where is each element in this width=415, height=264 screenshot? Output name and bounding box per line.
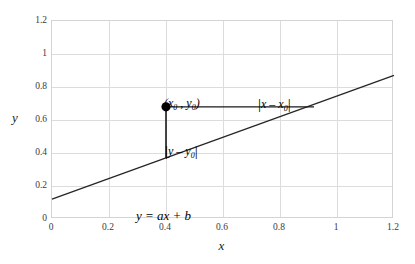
x-tick-label: 1.2: [373, 222, 413, 232]
minus-sign: –: [173, 144, 185, 158]
annotation-point-label: (x0 , y0): [164, 97, 200, 113]
y-tick-label: 0.4: [21, 147, 47, 157]
y-axis-title: y: [12, 110, 18, 126]
comma: ,: [177, 96, 186, 110]
y-tick-label: 1: [21, 48, 47, 58]
x-tick-label: 0: [31, 222, 71, 232]
chart-data-layer: [52, 21, 394, 219]
minus-sign: –: [266, 97, 278, 111]
abs-bar-open: |: [165, 143, 168, 159]
x-tick-label: 0.6: [202, 222, 242, 232]
x-tick-label: 0.2: [88, 222, 128, 232]
x-tick-label: 0.8: [259, 222, 299, 232]
abs-bar-close: |: [288, 96, 291, 112]
chart-figure: 1.2 1 0.8 0.6 0.4 0.2 0 y: [0, 0, 415, 264]
abs-bar-open: |: [258, 96, 261, 112]
y-tick-label: 0.8: [21, 81, 47, 91]
regression-line: [52, 75, 394, 199]
x-tick-label: 0.4: [145, 222, 185, 232]
annotation-x-distance-label: |x – x0|: [258, 95, 291, 114]
y-tick-label: 0.6: [21, 114, 47, 124]
x-tick-label: 1: [316, 222, 356, 232]
paren-close: ): [196, 96, 200, 110]
x-axis-tick-labels: 0 0.2 0.4 0.6 0.8 1 1.2: [51, 222, 393, 236]
annotation-y-distance-label: |y – y0|: [165, 142, 198, 161]
x-axis-title-text: x: [219, 238, 225, 253]
x-axis-title: x: [0, 238, 415, 254]
y-tick-label: 1.2: [21, 15, 47, 25]
abs-bar-close: |: [195, 143, 198, 159]
plot-area: (x0 , y0) |x – x0| |y – y0| y = ax + b: [51, 20, 393, 218]
y-tick-label: 0.2: [21, 180, 47, 190]
